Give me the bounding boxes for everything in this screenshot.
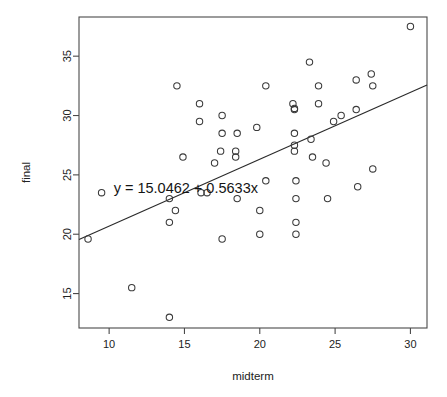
data-point <box>196 100 202 106</box>
data-point <box>85 236 91 242</box>
data-point <box>293 178 299 184</box>
x-tick-label: 25 <box>329 338 341 350</box>
y-tick-label: 20 <box>61 228 73 240</box>
data-point <box>293 195 299 201</box>
plot-frame <box>79 17 427 328</box>
data-point <box>98 189 104 195</box>
data-point <box>166 314 172 320</box>
regression-equation: y = 15.0462 + 0.5633x <box>114 180 259 196</box>
x-tick-label: 15 <box>178 338 190 350</box>
data-point <box>166 219 172 225</box>
data-point <box>254 124 260 130</box>
data-point <box>293 231 299 237</box>
y-tick-label: 30 <box>61 109 73 121</box>
data-point <box>196 118 202 124</box>
data-point <box>217 148 223 154</box>
y-tick-label: 35 <box>61 50 73 62</box>
plot-canvas: 10152025301520253035midtermfinaly = 15.0… <box>0 0 447 397</box>
data-point <box>219 236 225 242</box>
data-point <box>257 231 263 237</box>
data-point <box>324 195 330 201</box>
data-point <box>293 219 299 225</box>
x-tick-label: 20 <box>254 338 266 350</box>
data-point <box>370 83 376 89</box>
x-tick-label: 30 <box>404 338 416 350</box>
data-point <box>263 83 269 89</box>
y-tick-label: 15 <box>61 287 73 299</box>
data-point <box>338 112 344 118</box>
y-axis-title: final <box>20 162 32 183</box>
x-axis-title: midterm <box>232 370 274 382</box>
data-point <box>309 154 315 160</box>
data-point <box>180 154 186 160</box>
y-tick-label: 25 <box>61 169 73 181</box>
data-point <box>211 160 217 166</box>
data-point <box>129 284 135 290</box>
data-point <box>407 23 413 29</box>
x-tick-label: 10 <box>103 338 115 350</box>
data-point <box>219 112 225 118</box>
data-point <box>330 118 336 124</box>
data-point <box>368 71 374 77</box>
data-point <box>172 207 178 213</box>
scatter-plot-figure: 10152025301520253035midtermfinaly = 15.0… <box>0 0 447 397</box>
data-point <box>174 83 180 89</box>
data-point <box>234 130 240 136</box>
data-point <box>353 77 359 83</box>
data-point <box>257 207 263 213</box>
data-point <box>234 195 240 201</box>
data-point <box>353 106 359 112</box>
data-point <box>306 59 312 65</box>
data-point <box>219 130 225 136</box>
data-point <box>315 83 321 89</box>
data-point <box>370 166 376 172</box>
data-point <box>263 178 269 184</box>
data-point <box>355 184 361 190</box>
regression-line <box>79 85 427 239</box>
data-point <box>323 160 329 166</box>
data-point <box>315 100 321 106</box>
data-point <box>291 130 297 136</box>
